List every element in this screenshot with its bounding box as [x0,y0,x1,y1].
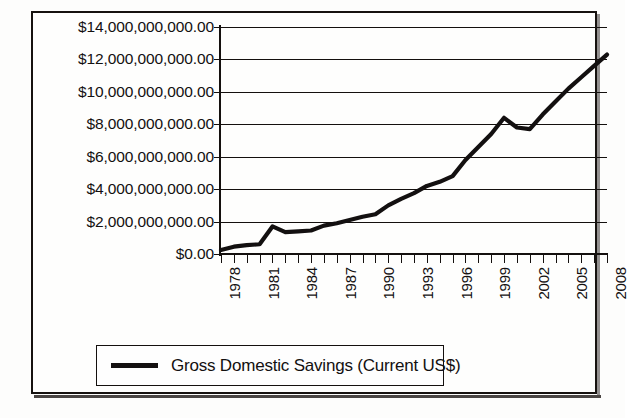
legend-label: Gross Domestic Savings (Current US$) [171,356,460,376]
legend-line-swatch [111,363,158,368]
chart-legend: Gross Domestic Savings (Current US$) [96,345,444,386]
